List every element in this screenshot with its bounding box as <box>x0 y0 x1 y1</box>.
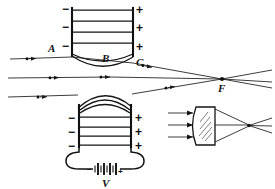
optical-refracted-rays <box>215 109 249 142</box>
lower-minus-sign-3: − <box>68 139 75 153</box>
glass-lens-analogy <box>168 107 272 145</box>
electron-dot-4 <box>142 64 145 67</box>
lower-equipotential-lines <box>79 117 131 145</box>
optical-diverging-rays <box>249 118 272 133</box>
upper-plus-sign-2: + <box>136 21 143 35</box>
lower-minus-sign-1: − <box>68 111 75 125</box>
label-a: A <box>47 42 55 54</box>
upper-equipotential-lines <box>72 10 133 43</box>
battery-circuit: − + V <box>66 147 144 189</box>
lens-hatching <box>199 112 212 141</box>
ray-3-beyond-focus <box>222 70 272 79</box>
lower-curved-equipotentials <box>78 96 132 113</box>
upper-plus-sign-1: + <box>136 3 143 17</box>
label-f: F <box>217 82 226 94</box>
electron-dot-6 <box>37 95 40 98</box>
upper-electrostatic-lens: − − − + + + A B C <box>47 2 144 68</box>
upper-minus-sign-3: − <box>62 39 69 53</box>
upper-minus-sign-2: − <box>62 20 69 34</box>
upper-minus-sign-1: − <box>62 2 69 16</box>
optical-incoming-rays <box>168 113 193 137</box>
battery-negative-terminal: − <box>87 165 92 174</box>
upper-plus-sign-3: + <box>136 40 143 54</box>
label-v: V <box>102 177 111 189</box>
lower-plus-sign-1: + <box>135 111 142 125</box>
battery-cells <box>95 163 116 175</box>
lower-minus-sign-2: − <box>68 125 75 139</box>
electron-dot-1 <box>26 57 29 60</box>
lower-electrostatic-lens: − − − + + + <box>68 96 142 153</box>
ray-1-incoming <box>10 57 72 59</box>
figure-canvas: − − − + + + A B C <box>0 0 275 189</box>
label-b: B <box>101 52 109 64</box>
lower-plus-sign-2: + <box>135 125 142 139</box>
electron-dot-5 <box>165 87 168 90</box>
focal-point-dot <box>220 77 224 81</box>
electron-dot-2 <box>49 76 52 79</box>
electrostatic-lens-figure: − − − + + + A B C <box>0 0 275 189</box>
ray-2-outgoing <box>110 77 222 79</box>
lower-plus-sign-3: + <box>135 139 142 153</box>
ray-3-outgoing <box>132 79 222 94</box>
electron-dot-3 <box>100 76 103 79</box>
electron-arrow-5 <box>168 87 175 88</box>
lens-body <box>193 107 216 145</box>
battery-positive-terminal: + <box>118 167 123 176</box>
